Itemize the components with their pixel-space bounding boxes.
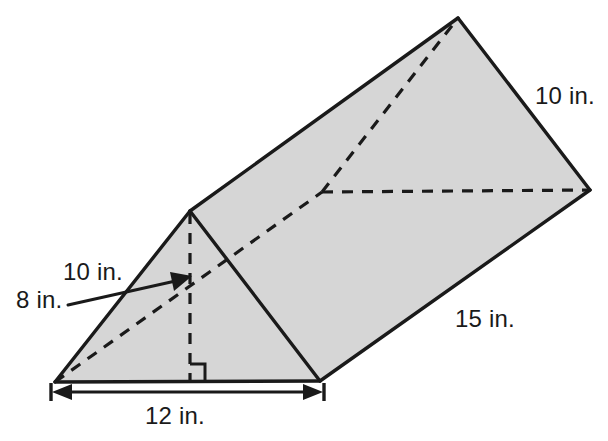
base-dimension-line — [51, 383, 324, 401]
label-prism-length: 15 in. — [455, 307, 515, 331]
dimension-arrowhead-left-icon — [52, 384, 72, 400]
label-triangle-base: 12 in. — [145, 404, 205, 428]
dimension-arrowhead-right-icon — [303, 384, 323, 400]
label-slant-height: 10 in. — [63, 260, 123, 284]
label-triangle-height: 8 in. — [16, 288, 62, 312]
prism-drawing — [0, 0, 608, 441]
prism-figure: 10 in. 8 in. 10 in. 15 in. 12 in. — [0, 0, 608, 441]
edge-front-base — [55, 381, 320, 382]
label-triangle-side: 10 in. — [535, 84, 595, 108]
